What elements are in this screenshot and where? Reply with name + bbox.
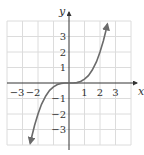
x-tick-label: −2 <box>26 87 41 98</box>
y-tick-label: −1 <box>51 93 66 104</box>
y-tick-label: 3 <box>60 31 66 42</box>
y-tick-label: −3 <box>51 124 66 135</box>
y-axis-label: y <box>58 5 66 18</box>
cubic-graph: −3 −2 1 2 3 3 2 1 −1 −2 −3 x y <box>0 0 144 155</box>
x-tick-label: 3 <box>112 87 118 98</box>
y-tick-label: −2 <box>51 109 66 120</box>
x-axis-label: x <box>138 85 144 98</box>
y-tick-label: 1 <box>60 62 66 73</box>
x-tick-label: −3 <box>10 87 25 98</box>
x-tick-label: 1 <box>81 87 87 98</box>
y-tick-label: 2 <box>60 47 66 58</box>
x-tick-label: 2 <box>97 87 103 98</box>
